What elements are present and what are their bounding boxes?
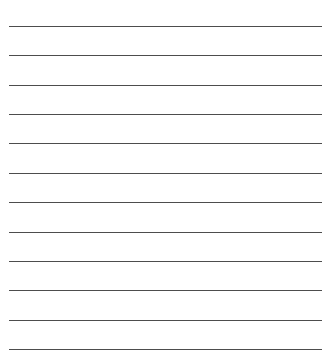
ruled-line [9, 232, 322, 233]
ruled-line [9, 173, 322, 174]
ruled-line [9, 55, 322, 56]
ruled-line [9, 143, 322, 144]
lined-paper [0, 0, 331, 353]
ruled-line [9, 290, 322, 291]
ruled-line [9, 261, 322, 262]
ruled-line [9, 349, 322, 350]
ruled-line [9, 114, 322, 115]
ruled-line [9, 320, 322, 321]
ruled-line [9, 202, 322, 203]
ruled-line [9, 26, 322, 27]
ruled-line [9, 85, 322, 86]
